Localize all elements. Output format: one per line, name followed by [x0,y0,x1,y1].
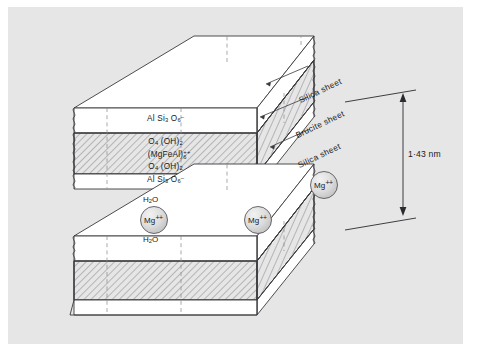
dimension-line [345,90,416,230]
ion-text: Mg++ [248,216,267,225]
label-water-below: H2O [143,235,158,244]
clay-structure-drawing [8,7,463,344]
figure-panel: Al Si3 O6– O4 (OH)2 (MgFeAl)++6 O4 (OH)2… [8,7,463,344]
dimension-text: 1·43 nm [408,149,441,159]
dimension-label: 1·43 nm [408,149,441,159]
formula-silica-lower: Al Si3 O6– [118,175,213,185]
mg-ion-3-label: Mg++ [314,181,333,190]
formula-silica-upper: Al Si3 O6– [118,114,213,124]
water-text: H2O [143,235,158,244]
formula-brucite-line3: O4 (OH)2 [118,162,213,171]
label-water-above: H2O [143,195,158,204]
formula-text: O4 (OH)2 [148,137,182,146]
water-text: H2O [143,195,158,204]
formula-text: Al Si3 O6– [147,175,184,184]
diagram-stage: Al Si3 O6– O4 (OH)2 (MgFeAl)++6 O4 (OH)2… [8,7,463,344]
formula-text: O4 (OH)2 [148,162,182,171]
formula-brucite-line1: O4 (OH)2 [118,137,213,146]
mg-ion-2-label: Mg++ [248,216,267,225]
formula-brucite-line2: (MgFeAl)++6 [118,150,213,159]
ion-text: Mg++ [144,216,163,225]
formula-text: (MgFeAl)++6 [148,150,184,159]
mg-ion-1-label: Mg++ [144,216,163,225]
formula-text: Al Si3 O6– [147,114,184,123]
ion-text: Mg++ [314,181,333,190]
